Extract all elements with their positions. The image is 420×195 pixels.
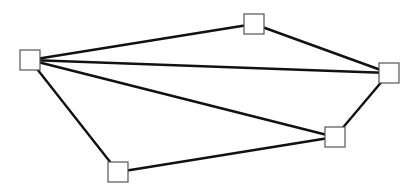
edge-n1-n3: [30, 60, 389, 73]
edge-n2-n3: [254, 24, 389, 73]
node-n4: [325, 127, 345, 147]
edge-n1-n4: [30, 60, 335, 137]
node-n5: [108, 162, 128, 182]
node-n3: [379, 63, 399, 83]
edge-n4-n5: [118, 137, 335, 172]
node-n1: [20, 50, 40, 70]
edge-n1-n2: [30, 24, 254, 60]
edges-group: [30, 24, 389, 172]
node-n2: [244, 14, 264, 34]
graph-diagram: [0, 0, 420, 195]
edge-n1-n5: [30, 60, 118, 172]
